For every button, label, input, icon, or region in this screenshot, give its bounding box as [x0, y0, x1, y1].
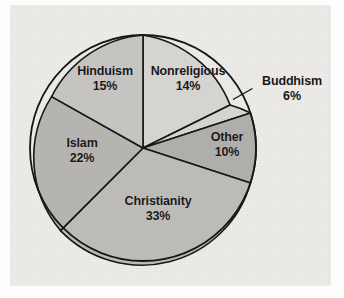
pie-chart-figure: Hinduism 15% Nonreligious 14% Buddhism 6… — [0, 0, 344, 298]
pie-label-nonreligious: Nonreligious 14% — [140, 64, 236, 93]
pie-label-nonreligious-percent: 14% — [140, 79, 236, 94]
pie-label-hinduism-percent: 15% — [62, 79, 148, 94]
pie-label-buddhism-percent: 6% — [250, 89, 334, 104]
pie-label-other-percent: 10% — [191, 145, 263, 160]
pie-label-islam-percent: 22% — [44, 151, 120, 166]
pie-label-other: Other 10% — [191, 130, 263, 159]
pie-label-islam: Islam 22% — [44, 136, 120, 165]
pie-label-other-name: Other — [191, 130, 263, 145]
pie-label-christianity-name: Christianity — [102, 194, 214, 209]
pie-label-hinduism: Hinduism 15% — [62, 64, 148, 93]
pie-label-buddhism: Buddhism 6% — [250, 74, 334, 103]
pie-label-nonreligious-name: Nonreligious — [140, 64, 236, 79]
pie-label-hinduism-name: Hinduism — [62, 64, 148, 79]
pie-label-buddhism-name: Buddhism — [250, 74, 334, 89]
pie-label-islam-name: Islam — [44, 136, 120, 151]
pie-label-christianity-percent: 33% — [102, 209, 214, 224]
pie-label-christianity: Christianity 33% — [102, 194, 214, 223]
